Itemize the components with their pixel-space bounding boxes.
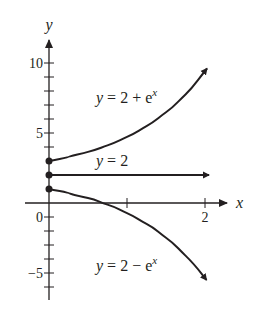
start-point-middle <box>46 172 53 179</box>
y-tick-label-5: 5 <box>36 126 43 141</box>
x-tick-label-2: 2 <box>202 210 209 225</box>
curve-2-plus-exp <box>49 69 207 162</box>
origin-label-0: 0 <box>36 210 43 225</box>
label-upper: y = 2 + ex <box>94 86 157 107</box>
label-middle: y = 2 <box>94 152 128 170</box>
x-axis-label: x <box>235 194 243 211</box>
label-upper-sup: x <box>151 86 157 98</box>
series-middle <box>46 172 210 179</box>
label-upper-main: = 2 + e <box>103 89 152 106</box>
chart-svg: 2 x y 10 5 0 −5 <box>0 0 253 314</box>
y-tick-label-neg5: −5 <box>28 266 43 281</box>
start-point-lower <box>46 186 53 193</box>
label-lower-sup: x <box>151 254 157 266</box>
start-point-upper <box>46 158 53 165</box>
chart-figure: 2 x y 10 5 0 −5 <box>0 0 253 314</box>
label-middle-main: = 2 <box>103 152 128 169</box>
y-tick-label-10: 10 <box>29 56 43 71</box>
label-lower: y = 2 − ex <box>94 254 157 275</box>
y-axis-label: y <box>43 16 53 34</box>
series-upper <box>46 69 208 165</box>
label-lower-main: = 2 − e <box>103 257 152 274</box>
x-axis: 2 x <box>25 194 243 225</box>
